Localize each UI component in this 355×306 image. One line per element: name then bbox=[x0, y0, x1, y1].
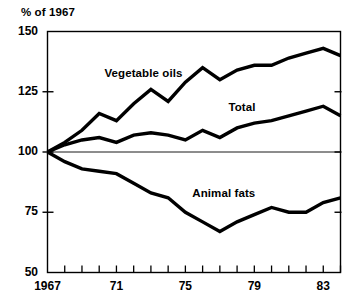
series-label-vegetable-oils: Vegetable oils bbox=[104, 67, 182, 79]
y-tick-label: 50 bbox=[4, 265, 38, 279]
x-tick-label: 71 bbox=[110, 279, 123, 293]
x-axis-ticks bbox=[65, 266, 341, 273]
series-label-animal-fats: Animal fats bbox=[192, 187, 255, 199]
series-lines bbox=[48, 48, 341, 231]
y-tick-label: 150 bbox=[4, 24, 38, 38]
x-tick-label: 75 bbox=[179, 279, 192, 293]
y-tick-label: 100 bbox=[4, 144, 38, 158]
x-tick-label: 1967 bbox=[34, 279, 61, 293]
y-tick-label: 75 bbox=[4, 204, 38, 218]
chart-plot-svg bbox=[0, 0, 355, 306]
chart-container: % of 1967 1501251007550 196771757983 Veg… bbox=[0, 0, 355, 306]
y-tick-label: 125 bbox=[4, 84, 38, 98]
x-tick-label: 79 bbox=[248, 279, 261, 293]
series-label-total: Total bbox=[228, 101, 255, 113]
x-tick-label: 83 bbox=[317, 279, 330, 293]
